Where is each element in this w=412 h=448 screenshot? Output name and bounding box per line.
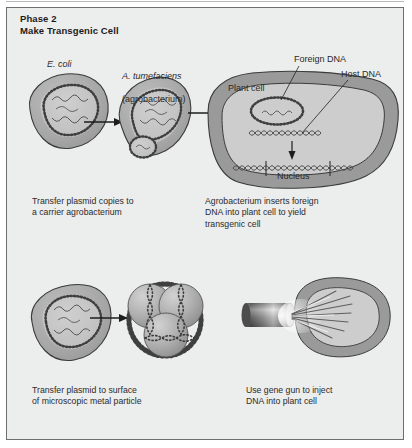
- caption-transfer-plasmid-to-agrobacterium: Transfer plasmid copies to a carrier agr…: [32, 196, 134, 219]
- caption-transfer-plasmid-to-particle: Transfer plasmid to surface of microscop…: [32, 385, 142, 408]
- page-title: Phase 2Make Transgenic Cell: [20, 13, 119, 36]
- label-foreign-dna: Foreign DNA: [294, 54, 346, 64]
- top-rule: [6, 1, 404, 2]
- title-line-2: Make Transgenic Cell: [20, 25, 119, 36]
- label-host-dna: Host DNA: [341, 69, 381, 79]
- label-nucleus: Nucleus: [277, 171, 310, 181]
- figure-root: Phase 2Make Transgenic Cell E. coli A. t…: [0, 0, 412, 448]
- label-agrobacterium-species: A. tumefaciens: [122, 71, 182, 81]
- label-plant-cell: Plant cell: [228, 83, 265, 93]
- label-agrobacterium: A. tumefaciens (agrobacterium): [122, 59, 186, 105]
- label-ecoli: E. coli: [47, 59, 72, 70]
- caption-gene-gun: Use gene gun to inject DNA into plant ce…: [246, 385, 332, 408]
- caption-agrobacterium-inserts-dna: Agrobacterium inserts foreign DNA into p…: [205, 196, 318, 230]
- label-agrobacterium-common: (agrobacterium): [122, 94, 186, 104]
- title-line-1: Phase 2: [20, 13, 57, 24]
